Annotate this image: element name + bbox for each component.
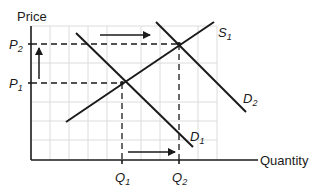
equilibrium-point-2: [177, 42, 181, 46]
curves: [66, 22, 246, 147]
x-axis-label: Quantity: [260, 153, 309, 168]
supply-demand-diagram: Price Quantity P2 P1 Q1 Q2 S1 D1 D2: [0, 0, 316, 190]
quantity-label-q2: Q2: [172, 170, 187, 187]
axes: [28, 26, 258, 164]
price-label-p1: P1: [9, 76, 23, 93]
curve-label-s1: S1: [218, 25, 232, 42]
equilibrium-point-1: [120, 81, 124, 85]
curve-label-d1: D1: [190, 129, 204, 146]
curve-label-d2: D2: [243, 91, 257, 108]
y-axis-label: Price: [17, 9, 47, 24]
demand-curve-d2: [156, 22, 246, 112]
price-label-p2: P2: [9, 37, 23, 54]
quantity-label-q1: Q1: [115, 170, 130, 187]
demand-curve-d1: [76, 33, 193, 147]
